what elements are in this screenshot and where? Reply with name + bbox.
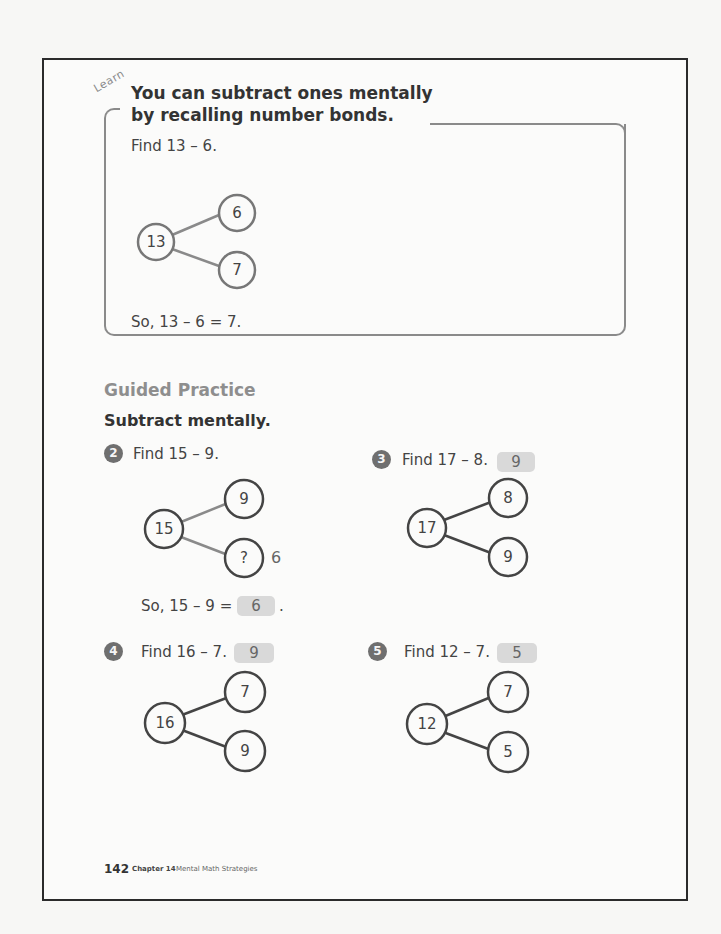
bond-whole: 12 — [413, 715, 441, 733]
bond-part-top: 7 — [494, 683, 522, 701]
chapter-title: Mental Math Strategies — [176, 865, 257, 873]
bond-part-bottom: 5 — [494, 743, 522, 761]
problem-5-number-bond — [0, 0, 721, 934]
chapter-label: Chapter 14 — [132, 865, 176, 873]
page-number: 142 — [104, 862, 129, 876]
